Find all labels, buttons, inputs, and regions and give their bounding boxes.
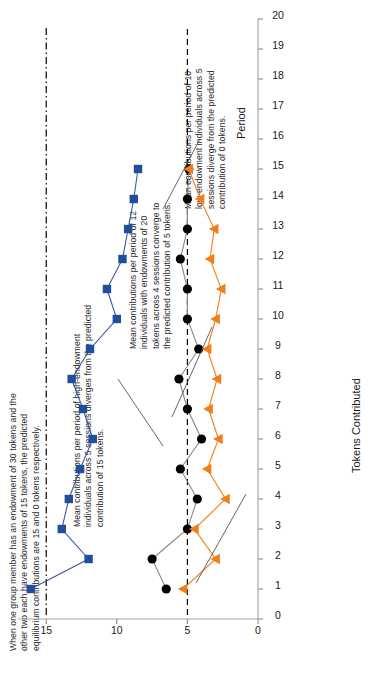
x-tick-label: 15 [272,159,284,171]
data-point-marker[interactable] [65,495,73,503]
x-tick-label: 14 [272,189,284,201]
data-point-marker[interactable] [58,525,66,533]
x-tick-label: 13 [272,219,284,231]
chart-plot-area: 01234567891011121314151617181920051015 [0,0,390,679]
x-tick-label: 9 [275,339,281,351]
data-point-marker[interactable] [148,554,157,563]
y-tick-label: 5 [184,624,190,636]
data-point-marker[interactable] [183,314,192,323]
data-point-marker[interactable] [183,284,192,293]
data-point-marker[interactable] [202,464,212,474]
data-point-marker[interactable] [213,434,223,444]
x-tick-label: 1 [275,579,281,591]
annotation-leader-line-1 [172,327,212,417]
x-tick-label: 12 [272,249,284,261]
x-tick-label: 3 [275,519,281,531]
x-tick-label: 5 [275,459,281,471]
annotation-leader-line-2 [163,139,200,209]
data-point-marker[interactable] [113,315,121,323]
x-tick-label: 19 [272,39,284,51]
data-point-marker[interactable] [76,465,84,473]
data-point-marker[interactable] [84,555,92,563]
data-point-marker[interactable] [183,224,192,233]
data-point-marker[interactable] [130,195,138,203]
y-tick-label: 0 [255,624,261,636]
data-point-marker[interactable] [197,434,206,443]
y-tick-label: 15 [40,624,52,636]
data-point-marker[interactable] [79,405,87,413]
annotation-leader-line-0 [118,379,163,446]
data-point-marker[interactable] [27,585,35,593]
rotated-figure: When one group member has an endowment o… [0,0,390,679]
data-point-marker[interactable] [183,194,192,203]
x-tick-label: 17 [272,99,284,111]
data-point-marker[interactable] [174,374,183,383]
data-point-marker[interactable] [118,255,126,263]
data-point-marker[interactable] [183,404,192,413]
x-tick-label: 20 [272,9,284,21]
data-point-marker[interactable] [89,435,97,443]
data-point-marker[interactable] [202,344,212,354]
data-point-marker[interactable] [134,165,142,173]
x-tick-label: 18 [272,69,284,81]
data-point-marker[interactable] [124,225,132,233]
x-tick-label: 8 [275,369,281,381]
data-point-marker[interactable] [176,464,185,473]
data-point-marker[interactable] [205,254,215,264]
x-tick-label: 16 [272,129,284,141]
x-tick-label: 10 [272,309,284,321]
data-point-marker[interactable] [67,375,75,383]
y-tick-label: 10 [111,624,123,636]
data-point-marker[interactable] [178,584,188,594]
x-tick-label: 2 [275,549,281,561]
data-point-marker[interactable] [203,404,213,414]
data-point-marker[interactable] [103,285,111,293]
x-tick-label: 4 [275,489,281,501]
data-point-marker[interactable] [193,494,202,503]
data-point-marker[interactable] [176,254,185,263]
data-point-marker[interactable] [189,524,199,534]
figure-canvas: When one group member has an endowment o… [0,0,390,679]
annotation-leader-line-3 [196,494,246,583]
x-tick-label: 11 [273,279,284,291]
x-tick-label: 0 [275,609,281,621]
data-point-marker[interactable] [195,194,205,204]
data-point-marker[interactable] [86,345,94,353]
x-tick-label: 7 [275,399,281,411]
x-tick-label: 6 [275,429,281,441]
data-point-marker[interactable] [162,584,171,593]
